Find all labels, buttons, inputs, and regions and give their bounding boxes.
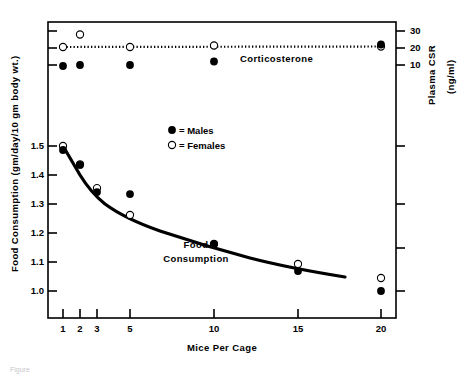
legend-label-females: = Females (179, 140, 225, 151)
corticosterone-fit-line (63, 47, 381, 48)
x-tick-label: 20 (376, 323, 387, 334)
y-tick-label: 1.4 (31, 169, 45, 180)
plot-frame (48, 22, 396, 318)
food-consumption-male-points (59, 146, 385, 295)
x-tick-label: 1 (60, 323, 66, 334)
y-axis-title: Food Consumption (gm/day/10 gm body wt.) (9, 55, 20, 272)
x-tick-label: 10 (209, 323, 220, 334)
x-axis-tick-labels: 1 2 3 5 10 15 20 (60, 323, 386, 334)
x-tick-label: 5 (127, 323, 133, 334)
legend-marker-males-icon (168, 126, 176, 134)
y2-tick-label: 20 (410, 42, 421, 53)
figure-caption: Figure (10, 366, 30, 374)
corticosterone-male-points (59, 41, 385, 70)
right-axis-ticks (396, 31, 405, 291)
food-annotation-line2: Consumption (163, 253, 229, 264)
y2-axis-title: Plasma CSR (426, 45, 437, 105)
y2-tick-label: 10 (410, 59, 421, 70)
legend-marker-females-icon (168, 141, 175, 148)
y-tick-label: 1.1 (31, 256, 45, 267)
x-tick-label: 3 (94, 323, 99, 334)
y2-tick-label: 30 (410, 25, 421, 36)
y2-axis-units: (ng/ml) (445, 60, 456, 94)
food-annotation-line1: Food (184, 239, 209, 250)
legend-label-males: = Males (179, 125, 214, 136)
x-tick-label: 2 (77, 323, 82, 334)
corticosterone-annotation: Corticosterone (240, 53, 313, 64)
left-axis-ticks (48, 31, 57, 291)
food-consumption-annotation: Food Consumption (163, 239, 229, 264)
y-tick-label: 1.5 (31, 140, 45, 151)
figure-container: 1.5 1.4 1.3 1.2 1.1 1.0 Food Consumption… (0, 0, 462, 374)
left-axis-tick-labels: 1.5 1.4 1.3 1.2 1.1 1.0 (31, 140, 45, 296)
x-tick-label: 15 (293, 323, 304, 334)
chart-svg: 1.5 1.4 1.3 1.2 1.1 1.0 Food Consumption… (0, 0, 462, 374)
legend: = Males = Females (168, 125, 225, 151)
y-tick-label: 1.3 (31, 198, 44, 209)
right-axis-tick-labels: 30 20 10 (410, 25, 421, 70)
x-axis-title: Mice Per Cage (187, 342, 257, 353)
corticosterone-female-points (59, 31, 384, 51)
x-axis-ticks (63, 309, 381, 318)
y-tick-label: 1.2 (31, 227, 44, 238)
y-tick-label: 1.0 (31, 285, 44, 296)
